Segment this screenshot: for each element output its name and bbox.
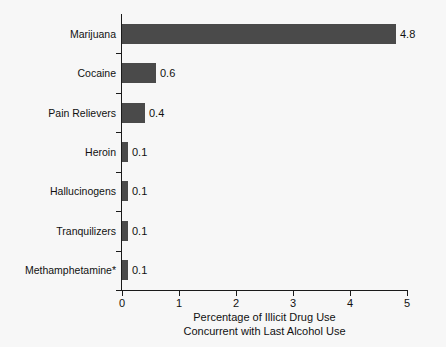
x-axis-title: Percentage of Illicit Drug Use Concurren…: [121, 311, 408, 338]
bar-value-label: 0.1: [132, 260, 147, 280]
bar: [122, 24, 396, 44]
x-axis-tick: [407, 291, 408, 296]
category-label: Pain Relievers: [48, 103, 116, 123]
y-axis-tick: [116, 290, 121, 291]
x-axis-tick: [293, 291, 294, 296]
x-axis-tick: [236, 291, 237, 296]
bar: [122, 63, 156, 83]
bar-value-label: 0.1: [132, 221, 147, 241]
bar-value-label: 0.1: [132, 142, 147, 162]
category-label: Methamphetamine*: [25, 260, 116, 280]
x-axis-tick-label: 1: [167, 297, 191, 310]
y-axis-tick: [116, 251, 121, 252]
x-axis-tick: [179, 291, 180, 296]
x-axis-tick-label: 5: [395, 297, 419, 310]
x-axis-tick-label: 4: [338, 297, 362, 310]
y-axis-tick: [116, 211, 121, 212]
category-label: Hallucinogens: [50, 181, 116, 201]
category-label: Heroin: [85, 142, 116, 162]
x-axis-tick: [350, 291, 351, 296]
x-axis-tick: [122, 291, 123, 296]
bar: [122, 260, 128, 280]
y-axis-tick: [116, 93, 121, 94]
bar-value-label: 0.1: [132, 181, 147, 201]
bar: [122, 221, 128, 241]
bar-chart: 012345 MarijuanaCocainePain RelieversHer…: [0, 0, 446, 347]
bar: [122, 142, 128, 162]
y-axis-tick: [116, 53, 121, 54]
bar-value-label: 0.6: [160, 63, 175, 83]
category-label: Marijuana: [70, 24, 116, 44]
bar: [122, 181, 128, 201]
category-label: Cocaine: [77, 63, 116, 83]
x-axis-tick-label: 0: [110, 297, 134, 310]
bar-value-label: 0.4: [149, 103, 164, 123]
x-axis-title-line-1: Percentage of Illicit Drug Use: [121, 311, 408, 325]
y-axis-tick: [116, 172, 121, 173]
bar-value-label: 4.8: [400, 24, 415, 44]
category-label: Tranquilizers: [56, 221, 116, 241]
x-axis-tick-label: 3: [281, 297, 305, 310]
x-axis-title-line-2: Concurrent with Last Alcohol Use: [121, 325, 408, 339]
x-axis-line: [121, 290, 408, 291]
bar: [122, 103, 145, 123]
y-axis-tick: [116, 132, 121, 133]
x-axis-tick-label: 2: [224, 297, 248, 310]
